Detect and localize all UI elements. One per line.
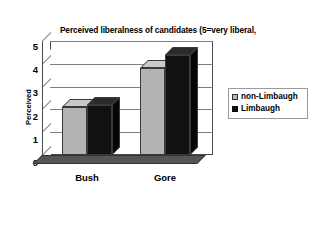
bar-front-face <box>165 55 190 155</box>
y-tick-label-4: 4 <box>24 65 38 75</box>
gridline-5 <box>50 41 213 42</box>
plot-floor <box>33 155 206 164</box>
y-tick-label-5: 5 <box>24 42 38 52</box>
legend-label-non-limbaugh: non-Limbaugh <box>241 92 298 101</box>
bar-bush-limbaugh <box>87 105 112 155</box>
y-tick-label-2: 2 <box>24 112 38 122</box>
legend-item-non-limbaugh: non-Limbaugh <box>232 91 304 102</box>
legend-swatch-icon-limbaugh <box>232 106 238 112</box>
x-tick-label-bush: Bush <box>57 172 117 183</box>
x-axis-tick-labels: Bush Gore <box>42 172 222 186</box>
bar-front-face <box>87 105 112 155</box>
legend-swatch-icon-non-limbaugh <box>232 94 238 100</box>
legend-label-limbaugh: Limbaugh <box>241 104 280 113</box>
bar-front-face <box>140 68 165 155</box>
bar-side-face <box>190 47 198 155</box>
bar-side-face <box>112 97 120 155</box>
x-tick-label-gore: Gore <box>135 172 195 183</box>
bar-gore-non-limbaugh <box>140 68 165 155</box>
y-tick-label-3: 3 <box>24 88 38 98</box>
y-axis-title: Perceived liberalness <box>8 62 24 152</box>
legend-item-limbaugh: Limbaugh <box>232 103 304 114</box>
chart-legend: non-Limbaugh Limbaugh <box>228 88 308 119</box>
bar-bush-non-limbaugh <box>62 107 87 155</box>
bar-front-face <box>62 107 87 155</box>
plot-area <box>42 41 214 168</box>
bar-gore-limbaugh <box>165 55 190 155</box>
y-tick-label-1: 1 <box>24 135 38 145</box>
